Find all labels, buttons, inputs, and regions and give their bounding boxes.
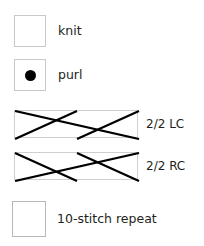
legend-label-repeat: 10-stitch repeat	[57, 213, 157, 226]
cable-left-cross-symbol	[14, 110, 138, 138]
purl-dot-icon	[25, 70, 36, 81]
cable-right-cross-icon	[14, 152, 140, 182]
legend-row-2-2-lc: 2/2 LC	[14, 110, 184, 138]
legend-label-2-2-rc: 2/2 RC	[146, 160, 185, 172]
legend-row-purl: purl	[14, 59, 82, 91]
legend-label-purl: purl	[58, 69, 82, 82]
knitting-chart-legend: knit purl 2/2 LC	[0, 0, 204, 246]
cable-left-cross-icon	[14, 110, 140, 140]
cable-right-cross-symbol	[14, 152, 138, 180]
knit-symbol-square	[14, 15, 46, 47]
purl-symbol-square	[14, 59, 46, 91]
legend-row-repeat: 10-stitch repeat	[12, 201, 157, 237]
legend-label-knit: knit	[58, 25, 82, 38]
legend-row-knit: knit	[14, 15, 82, 47]
legend-label-2-2-lc: 2/2 LC	[146, 118, 184, 130]
repeat-symbol-square	[12, 201, 46, 237]
legend-row-2-2-rc: 2/2 RC	[14, 152, 185, 180]
